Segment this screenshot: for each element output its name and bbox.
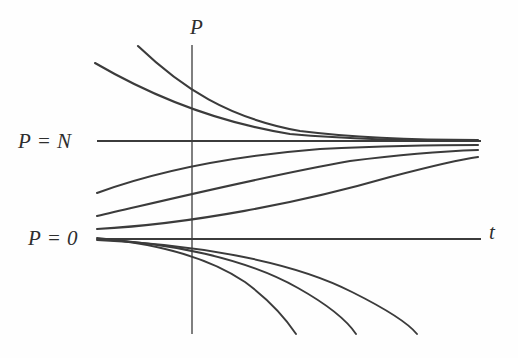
- figure-canvas: P t P = N P = 0: [0, 0, 518, 358]
- solution-curves-plot: [0, 0, 518, 358]
- solution-curve-below-zero-third: [97, 240, 417, 334]
- equilibrium-label-P-equals-N: P = N: [18, 131, 72, 152]
- vertical-axis-label-P: P: [190, 17, 203, 38]
- equilibrium-label-P-equals-zero: P = 0: [28, 228, 78, 249]
- solution-curve-above-N-inner: [138, 46, 478, 140]
- solution-curve-between-middle: [97, 150, 478, 216]
- horizontal-axis-label-t: t: [489, 222, 495, 243]
- solution-curve-between-lower: [97, 157, 478, 229]
